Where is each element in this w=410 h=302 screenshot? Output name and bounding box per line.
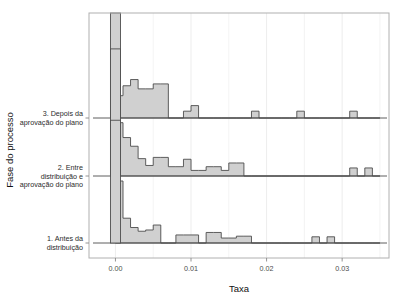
- x-tick-label: 0.00: [108, 264, 122, 273]
- plot-panel: [89, 13, 389, 258]
- chart-canvas: 0.000.010.020.03 1. Antes dadistribuição…: [0, 0, 410, 302]
- ridgeline-chart: 0.000.010.020.03 1. Antes dadistribuição…: [0, 0, 410, 302]
- y-tick-label: aprovação do plano: [20, 118, 83, 127]
- panel-background: [89, 13, 389, 258]
- y-tick-label: aprovação do plano: [20, 180, 83, 189]
- x-tick-label: 0.03: [335, 264, 349, 273]
- x-axis-title: Taxa: [229, 283, 250, 294]
- y-axis-title: Fase do processo: [4, 112, 15, 188]
- x-tick-label: 0.01: [184, 264, 198, 273]
- x-tick-label: 0.02: [260, 264, 274, 273]
- y-tick-label: distribuição: [47, 243, 83, 252]
- ridge-zero-spike: [110, 120, 120, 243]
